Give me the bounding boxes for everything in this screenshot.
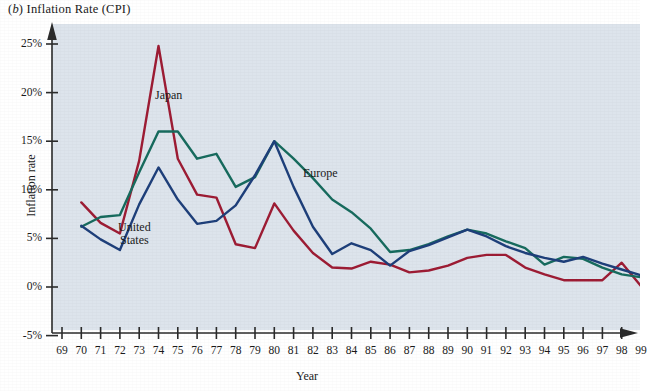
us-label-line2: States: [120, 233, 149, 247]
series-lines: [81, 46, 640, 286]
series-line-japan: [81, 46, 640, 286]
y-axis-title: Inflation rate: [24, 131, 39, 241]
series-line-europe: [81, 131, 640, 277]
series-label-united-states: UnitedStates: [118, 221, 151, 247]
y-tick-label: 0%: [0, 280, 42, 292]
us-label-line1: United: [118, 220, 151, 234]
x-axis-title: Year: [296, 369, 318, 384]
series-line-united-states: [81, 141, 640, 275]
y-tick-label: 25%: [0, 37, 42, 49]
y-tick-label: -5%: [0, 329, 42, 341]
y-tick-label: 20%: [0, 86, 42, 98]
series-label-europe: Europe: [303, 167, 338, 180]
series-label-japan: Japan: [155, 89, 182, 102]
x-tick-label: 99: [630, 344, 651, 356]
